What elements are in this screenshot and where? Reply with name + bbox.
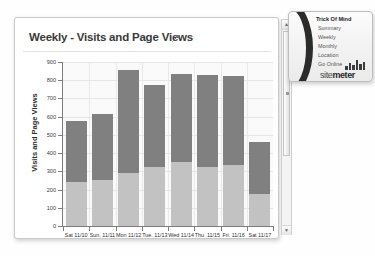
x-tick-label: Thu. 11/15 (195, 232, 220, 238)
x-tick-label: Mon 11/12 (116, 232, 141, 238)
y-tick-label: 100 (15, 205, 56, 211)
y-axis-line (62, 62, 63, 227)
bar-segment-pageviews (92, 114, 113, 180)
panel-title: Trick Of Mind (316, 16, 351, 22)
panel-link-weekly[interactable]: Weekly (318, 34, 336, 40)
y-tick-label: 600 (15, 114, 56, 120)
bar[interactable] (92, 114, 113, 226)
bar-segment-pageviews (197, 75, 218, 167)
report-card: Weekly - Visits and Page Views Visits an… (14, 17, 279, 239)
y-tick-label: 300 (15, 168, 56, 174)
bar-segment-pageviews (66, 121, 87, 182)
chart-area: Visits and Page Views 010020030040050060… (15, 54, 280, 240)
x-tick-mark (116, 227, 117, 231)
y-tick-mark (58, 117, 62, 118)
x-tick-mark (221, 227, 222, 231)
x-tick-mark (63, 227, 64, 231)
diagonal-arrow-icon[interactable] (170, 30, 182, 42)
vertical-gridline (142, 62, 143, 226)
y-tick-mark (58, 80, 62, 81)
bar-segment-visits (223, 165, 244, 226)
x-tick-mark (89, 227, 90, 231)
bar-segment-visits (249, 194, 270, 226)
vertical-gridline (116, 62, 117, 226)
vertical-gridline (168, 62, 169, 226)
y-tick-mark (58, 208, 62, 209)
y-tick-label: 400 (15, 150, 56, 156)
panel-link-location[interactable]: Location (318, 52, 338, 58)
logo-text-bold: meter (332, 70, 355, 80)
y-tick-mark (58, 62, 62, 63)
page-title: Weekly - Visits and Page Views (29, 31, 193, 43)
x-tick-mark (247, 227, 248, 231)
bar-segment-pageviews (144, 85, 165, 167)
swoosh-decoration-icon (288, 11, 313, 82)
bar[interactable] (66, 121, 87, 226)
bar[interactable] (144, 85, 165, 226)
y-tick-label: 900 (15, 59, 56, 65)
y-tick-label: 700 (15, 95, 56, 101)
x-tick-label: Wed 11/14 (168, 232, 194, 238)
scroll-down-button[interactable]: ▼ (282, 225, 291, 235)
y-tick-mark (58, 153, 62, 154)
title-divider (23, 51, 271, 52)
vertical-gridline (89, 62, 90, 226)
scrollbar-grip-icon (286, 92, 289, 95)
y-tick-mark (58, 135, 62, 136)
sitemeter-logo[interactable]: sitemeter (320, 70, 355, 80)
x-tick-label: Tue. 11/13 (142, 232, 167, 238)
x-tick-label: Sun. 11/11 (90, 232, 115, 238)
bar-segment-visits (171, 162, 192, 226)
bar-chart-logo-icon (345, 59, 369, 70)
bar-segment-pageviews (171, 74, 192, 162)
y-tick-label: 500 (15, 132, 56, 138)
bar-segment-pageviews (249, 142, 270, 194)
sitemeter-panel: Trick Of Mind SummaryWeeklyMonthlyLocati… (288, 11, 373, 82)
panel-link-summary[interactable]: Summary (318, 25, 341, 31)
y-tick-mark (58, 190, 62, 191)
x-tick-mark (168, 227, 169, 231)
y-tick-mark (58, 98, 62, 99)
panel-link-monthly[interactable]: Monthly (318, 43, 337, 49)
screenshot-root: Weekly - Visits and Page Views Visits an… (0, 0, 375, 256)
x-tick-mark (273, 227, 274, 231)
bar-segment-visits (92, 180, 113, 226)
y-tick-label: 0 (15, 223, 56, 229)
bar[interactable] (223, 76, 244, 226)
y-tick-label: 200 (15, 187, 56, 193)
x-tick-label: Fri. 11/16 (222, 232, 244, 238)
bar[interactable] (197, 75, 218, 226)
bar-segment-visits (144, 167, 165, 226)
x-tick-mark (194, 227, 195, 231)
logo-text-light: site (320, 70, 332, 80)
bar-segment-pageviews (118, 70, 139, 173)
panel-link-go-online[interactable]: Go Online (318, 61, 342, 67)
y-tick-mark (58, 171, 62, 172)
y-tick-label: 800 (15, 77, 56, 83)
vertical-gridline (194, 62, 195, 226)
bar-segment-visits (197, 167, 218, 226)
vertical-gridline (247, 62, 248, 226)
bar[interactable] (249, 142, 270, 226)
x-tick-mark (142, 227, 143, 231)
bar[interactable] (171, 74, 192, 226)
bar[interactable] (118, 70, 139, 226)
x-tick-label: Sat 11/10 (65, 232, 88, 238)
vertical-gridline (221, 62, 222, 226)
x-tick-label: Sat 11/17 (249, 232, 272, 238)
bar-segment-pageviews (223, 76, 244, 165)
bar-segment-visits (66, 182, 87, 226)
y-tick-mark (58, 226, 62, 227)
bar-segment-visits (118, 173, 139, 226)
